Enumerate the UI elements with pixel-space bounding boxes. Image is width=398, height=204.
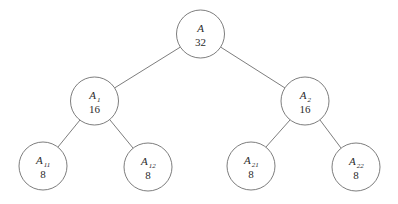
- tree-edge: [320, 120, 341, 148]
- node-value: 16: [89, 103, 101, 115]
- tree-node[interactable]: A128: [124, 143, 172, 191]
- tree-canvas: A32A116A216A118A128A218A228: [0, 0, 398, 204]
- tree-edge: [115, 47, 181, 88]
- node-circle: [71, 77, 119, 125]
- tree-node[interactable]: A218: [227, 142, 275, 190]
- binary-tree-diagram: A32A116A216A118A128A218A228: [0, 0, 398, 204]
- node-value: 8: [353, 169, 359, 181]
- node-value: 16: [300, 103, 312, 115]
- nodes-group: A32A116A216A118A128A218A228: [19, 10, 380, 191]
- node-value: 32: [195, 36, 206, 48]
- node-label: A: [348, 155, 356, 167]
- node-value: 8: [248, 168, 254, 180]
- node-value: 8: [40, 168, 46, 180]
- node-label: A: [243, 154, 251, 166]
- tree-edge: [266, 120, 290, 147]
- node-label: A: [196, 22, 204, 34]
- tree-node[interactable]: A118: [19, 142, 67, 190]
- tree-node[interactable]: A228: [332, 143, 380, 191]
- node-label: A: [140, 155, 148, 167]
- tree-edge: [58, 120, 80, 147]
- node-label: A: [299, 89, 307, 101]
- tree-edge: [110, 120, 133, 148]
- tree-node[interactable]: A116: [71, 77, 119, 125]
- node-label: A: [88, 89, 96, 101]
- node-value: 8: [145, 169, 151, 181]
- tree-node[interactable]: A32: [177, 10, 225, 58]
- node-circle: [177, 10, 225, 58]
- node-label: A: [35, 154, 43, 166]
- tree-node[interactable]: A216: [281, 77, 329, 125]
- node-circle: [281, 77, 329, 125]
- tree-edge: [221, 47, 286, 88]
